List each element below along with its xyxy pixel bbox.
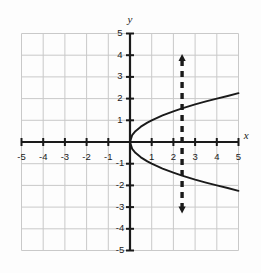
y-tick-label: -5 [116, 244, 124, 255]
y-tick-label: 1 [117, 114, 122, 125]
x-tick-label: -1 [104, 151, 112, 162]
y-tick-label: -2 [116, 179, 124, 190]
y-tick-label: 2 [117, 92, 122, 103]
y-tick-label: -4 [116, 222, 124, 233]
y-tick-label: 4 [117, 49, 122, 60]
y-tick-label: 5 [117, 27, 122, 38]
coordinate-plane-svg: -5-4-3-2-11234554321-1-2-3-4-5 x y [0, 0, 261, 273]
y-tick-label: -1 [116, 157, 124, 168]
x-tick-label: 3 [192, 151, 197, 162]
x-tick-label: 5 [236, 151, 241, 162]
x-axis-label: x [243, 129, 249, 141]
x-tick-label: -5 [17, 151, 25, 162]
x-tick-label: -3 [61, 151, 69, 162]
y-tick-label: -3 [116, 201, 124, 212]
x-tick-label: -4 [39, 151, 47, 162]
y-axis-label: y [127, 13, 133, 25]
x-tick-label: 2 [171, 151, 176, 162]
graph-figure: -5-4-3-2-11234554321-1-2-3-4-5 x y [0, 0, 261, 273]
x-tick-label: -2 [82, 151, 90, 162]
x-tick-label: 4 [214, 151, 219, 162]
x-tick-label: 1 [149, 151, 154, 162]
y-tick-label: 3 [117, 70, 122, 81]
